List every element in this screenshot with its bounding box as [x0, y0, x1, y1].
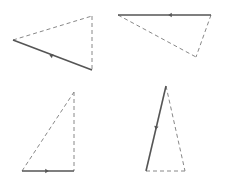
- dashed-edge: [22, 92, 74, 171]
- triangle-bottom-left: [22, 92, 74, 173]
- arrowhead-icon: [168, 13, 172, 17]
- dashed-edge: [166, 86, 185, 171]
- dashed-edge: [196, 15, 211, 57]
- diagram-canvas: [0, 0, 225, 188]
- dashed-edge: [118, 15, 196, 57]
- triangle-top-left: [13, 16, 92, 70]
- triangle-top-right: [118, 13, 211, 57]
- triangle-bottom-right: [146, 86, 185, 171]
- arrowhead-icon: [45, 169, 49, 173]
- dashed-edge: [13, 16, 92, 40]
